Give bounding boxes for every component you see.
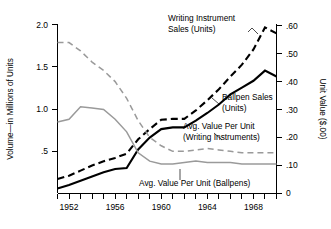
left-tick-label-1-0: 1.0 [36, 104, 48, 114]
ann-writing-line2: Sales (Units) [168, 24, 216, 34]
x-axis-tick-label: 1968 [244, 202, 263, 212]
annotation-ballpen-sales: Ballpen Sales (Units) [222, 92, 273, 113]
x-axis-tick-label: 1964 [198, 202, 217, 212]
ann-ballpen-line1: Ballpen Sales [222, 92, 273, 102]
y-axis-title: Volume—in Millions of Units [6, 58, 15, 159]
right-tick-label-20: .20 [286, 132, 298, 142]
ann-avgwi-line2: (Writing Instruments) [183, 132, 260, 142]
right-tick-label-40: .40 [286, 77, 298, 87]
right-tick-label-50: .50 [286, 49, 298, 59]
left-axis-ticks [52, 25, 58, 152]
x-axis-tick-label: 1960 [152, 202, 171, 212]
leader-writing-instrument [248, 28, 258, 34]
right-tick-label-10: .10 [286, 160, 298, 170]
x-axis-tick-labels: 19521956196019641968 [60, 202, 264, 212]
right-tick-label-0: 0 [286, 188, 291, 198]
ann-avgbp-line1: Avg. Value Per Unit (Ballpens) [139, 178, 251, 188]
leader-ballpen [212, 98, 219, 104]
right-tick-label-60: .60 [286, 21, 298, 31]
ann-writing-line1: Writing Instrument [168, 13, 236, 23]
left-tick-label-1-5: 1.5 [36, 62, 48, 72]
right-tick-label-30: .30 [286, 105, 298, 115]
x-axis-tick-label: 1952 [60, 202, 79, 212]
x-axis-tick-label: 1956 [106, 202, 125, 212]
chart-container: 2.0 1.5 1.0 .5 .60 .50 .40 .30 .20 .10 0… [0, 0, 331, 229]
ann-avgwi-line1: Avg. Value Per Unit [183, 121, 255, 131]
x-axis-ticks [58, 194, 277, 199]
left-tick-label-2-0: 2.0 [36, 20, 48, 30]
annotation-writing-instrument-sales: Writing Instrument Sales (Units) [168, 13, 236, 34]
line-chart-plot: 2.0 1.5 1.0 .5 .60 .50 .40 .30 .20 .10 0… [0, 0, 331, 229]
annotation-avg-value-writing-instruments: Avg. Value Per Unit (Writing Instruments… [183, 121, 260, 142]
ann-ballpen-line2: (Units) [222, 103, 247, 113]
annotation-avg-value-ballpens: Avg. Value Per Unit (Ballpens) [139, 178, 251, 188]
y2-axis-title: Unit Value ($.00) [318, 79, 327, 140]
left-tick-label-0-5: .5 [41, 146, 48, 156]
right-axis-ticks [277, 26, 283, 193]
